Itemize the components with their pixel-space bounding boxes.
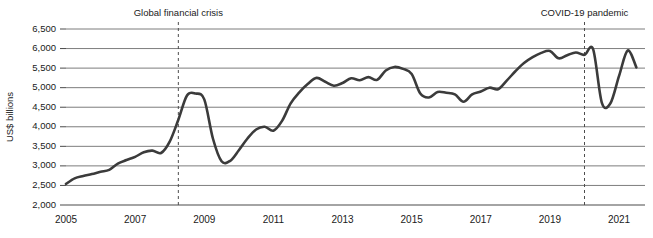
y-tick-label: 5,000 bbox=[32, 81, 56, 92]
y-tick-label: 5,500 bbox=[32, 62, 56, 73]
y-tick-label: 6,500 bbox=[32, 23, 56, 34]
y-tick-label: 4,500 bbox=[32, 101, 56, 112]
chart-container: 2,0002,5003,0003,5004,0004,5005,0005,500… bbox=[0, 0, 653, 238]
gridlines bbox=[66, 29, 645, 205]
y-tick-label: 2,000 bbox=[32, 199, 56, 210]
x-tick-label: 2005 bbox=[55, 214, 78, 225]
x-tick-label: 2013 bbox=[331, 214, 354, 225]
data-series bbox=[66, 47, 636, 184]
y-tick-marks bbox=[60, 29, 66, 205]
x-tick-label: 2007 bbox=[124, 214, 147, 225]
x-tick-label: 2009 bbox=[193, 214, 216, 225]
y-axis-title: US$ billions bbox=[4, 92, 15, 142]
x-tick-label: 2021 bbox=[608, 214, 631, 225]
x-tick-label: 2017 bbox=[470, 214, 493, 225]
event-marker-lines bbox=[178, 22, 584, 205]
x-tick-label: 2019 bbox=[539, 214, 562, 225]
series-line bbox=[66, 47, 636, 184]
event-annotation-labels: Global financial crisisCOVID-19 pandemic bbox=[134, 7, 629, 18]
y-axis-tick-labels: 2,0002,5003,0003,5004,0004,5005,0005,500… bbox=[32, 23, 56, 210]
y-tick-label: 3,000 bbox=[32, 159, 56, 170]
x-tick-label: 2015 bbox=[401, 214, 424, 225]
x-axis-tick-labels: 200520072009201120132015201720192021 bbox=[55, 214, 631, 225]
y-tick-label: 6,000 bbox=[32, 42, 56, 53]
line-chart: 2,0002,5003,0003,5004,0004,5005,0005,500… bbox=[0, 0, 653, 238]
event-annotation-label: Global financial crisis bbox=[134, 7, 223, 18]
y-tick-label: 3,500 bbox=[32, 140, 56, 151]
event-annotation-label: COVID-19 pandemic bbox=[541, 7, 629, 18]
y-tick-label: 2,500 bbox=[32, 179, 56, 190]
y-tick-label: 4,000 bbox=[32, 120, 56, 131]
x-tick-label: 2011 bbox=[263, 214, 285, 225]
